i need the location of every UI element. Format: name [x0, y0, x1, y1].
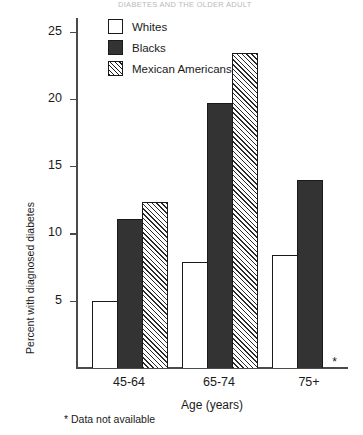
bar-45-64-blacks[interactable]	[117, 219, 143, 368]
bar-65-74-mexican-americans[interactable]	[232, 53, 258, 368]
x-category-label-75-plus: 75+	[271, 375, 347, 389]
legend-label-blacks: Blacks	[132, 42, 166, 54]
y-tick-10: 10	[70, 233, 76, 234]
x-axis-title: Age (years)	[76, 398, 348, 412]
y-axis-title: Percent with diagnosed diabetes	[16, 90, 32, 290]
data-not-available-asterisk: *	[332, 358, 337, 366]
legend-label-mexican-americans: Mexican Americans	[132, 63, 232, 75]
chart-legend: Whites Blacks Mexican Americans	[108, 16, 278, 79]
y-tick-label-15: 15	[48, 158, 62, 172]
legend-swatch-blacks-icon	[108, 40, 123, 55]
x-category-label-65-74: 65-74	[181, 375, 257, 389]
y-axis-title-text: Percent with diagnosed diabetes	[24, 202, 36, 354]
x-category-label-45-64: 45-64	[91, 375, 167, 389]
y-tick-label-5: 5	[55, 293, 62, 307]
legend-item-blacks[interactable]: Blacks	[108, 37, 278, 58]
bar-65-74-blacks[interactable]	[207, 103, 233, 368]
legend-swatch-whites-icon	[108, 19, 123, 34]
y-tick-5: 5	[70, 301, 76, 302]
bar-45-64-mexican-americans[interactable]	[142, 202, 168, 368]
bar-group-75-plus: *	[272, 18, 348, 368]
legend-label-whites: Whites	[132, 21, 167, 33]
bar-75-plus-mexican-americans-missing: *	[322, 350, 348, 368]
legend-swatch-mexican-americans-icon	[108, 61, 123, 76]
y-tick-label-20: 20	[48, 91, 62, 105]
bar-45-64-whites[interactable]	[92, 301, 118, 368]
legend-item-mexican-americans[interactable]: Mexican Americans	[108, 58, 278, 79]
legend-item-whites[interactable]: Whites	[108, 16, 278, 37]
bar-75-plus-blacks[interactable]	[297, 180, 323, 368]
bar-65-74-whites[interactable]	[182, 262, 208, 368]
y-tick-label-25: 25	[48, 24, 62, 38]
y-tick-15: 15	[70, 166, 76, 167]
y-tick-25: 25	[70, 32, 76, 33]
footnote: * Data not available	[64, 413, 155, 425]
y-tick-label-10: 10	[48, 225, 62, 239]
y-tick-20: 20	[70, 99, 76, 100]
running-head: DIABETES AND THE OLDER ADULT	[118, 0, 358, 9]
bar-75-plus-whites[interactable]	[272, 255, 298, 368]
